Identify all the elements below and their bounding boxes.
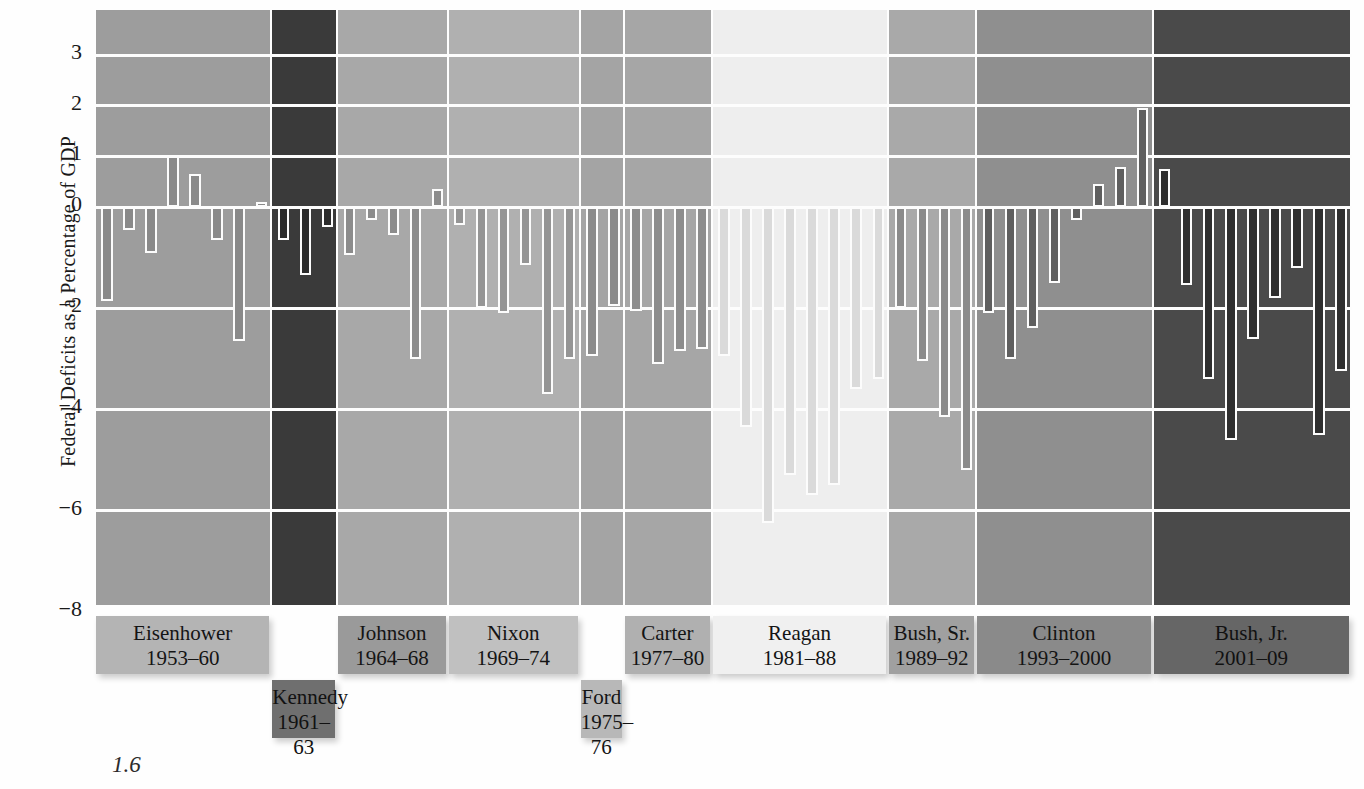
plate-years: 1989–92 — [889, 646, 974, 671]
bar-1972 — [520, 207, 531, 265]
bar-1989 — [895, 207, 906, 308]
plate-name: Nixon — [449, 621, 578, 646]
bar-2004 — [1225, 207, 1236, 440]
plate-years: 1953–60 — [96, 646, 269, 671]
bar-1956 — [167, 156, 178, 207]
bar-1957 — [189, 174, 200, 207]
bar-1991 — [939, 207, 950, 417]
bar-1987 — [850, 207, 861, 389]
bar-1960 — [256, 202, 267, 207]
gridline-2 — [96, 104, 1352, 107]
plate-name: Clinton — [977, 621, 1150, 646]
bar-1958 — [211, 207, 222, 240]
bar-1969 — [454, 207, 465, 225]
bar-1959 — [233, 207, 244, 341]
figure-caption: 1.6 — [112, 752, 141, 778]
bar-1976 — [608, 207, 619, 306]
plate-reagan: Reagan1981–88 — [713, 616, 886, 674]
bar-2003 — [1203, 207, 1214, 379]
bar-1988 — [873, 207, 884, 379]
bar-1979 — [674, 207, 685, 351]
bar-1982 — [740, 207, 751, 427]
bar-1953 — [101, 207, 112, 301]
bar-2009 — [1335, 207, 1346, 371]
plate-bush-sr: Bush, Sr.1989–92 — [889, 616, 974, 674]
bar-1967 — [410, 207, 421, 359]
bar-2002 — [1181, 207, 1192, 285]
bar-1998 — [1093, 184, 1104, 207]
bar-1990 — [917, 207, 928, 361]
plate-carter: Carter1977–80 — [625, 616, 710, 674]
bar-1977 — [630, 207, 641, 311]
plate-years: 1981–88 — [713, 646, 886, 671]
president-label-plates: Eisenhower1953–60Kennedy1961–63Johnson19… — [0, 0, 1364, 789]
bar-2008 — [1313, 207, 1324, 435]
bar-2001 — [1159, 169, 1170, 207]
plate-years: 1964–68 — [338, 646, 445, 671]
bar-1966 — [388, 207, 399, 235]
bar-1985 — [806, 207, 817, 495]
bar-2007 — [1291, 207, 1302, 268]
bar-1971 — [498, 207, 509, 313]
bar-1996 — [1049, 207, 1060, 283]
bar-1983 — [762, 207, 773, 523]
plate-years: 1969–74 — [449, 646, 578, 671]
bar-1962 — [300, 207, 311, 275]
bar-2005 — [1247, 207, 1258, 339]
bar-1995 — [1027, 207, 1038, 328]
bar-1999 — [1115, 167, 1126, 207]
plate-clinton: Clinton1993–2000 — [977, 616, 1150, 674]
plate-name: Reagan — [713, 621, 886, 646]
plate-years: 1961–63 — [272, 710, 335, 760]
bar-1992 — [961, 207, 972, 470]
plate-years: 1977–80 — [625, 646, 710, 671]
bar-1984 — [784, 207, 795, 475]
bar-2006 — [1269, 207, 1280, 298]
plate-name: Bush, Sr. — [889, 621, 974, 646]
bar-1955 — [145, 207, 156, 253]
bar-1968 — [432, 189, 443, 207]
plate-years: 1975–76 — [581, 710, 622, 760]
bar-1970 — [476, 207, 487, 308]
plate-bush-jr: Bush, Jr.2001–09 — [1154, 616, 1349, 674]
bar-1978 — [652, 207, 663, 364]
plate-kennedy: Kennedy1961–63 — [272, 680, 335, 738]
bar-1964 — [344, 207, 355, 255]
bar-1975 — [586, 207, 597, 356]
plate-years: 1993–2000 — [977, 646, 1150, 671]
plate-name: Kennedy — [272, 685, 335, 710]
gridline-1 — [96, 155, 1352, 158]
plate-name: Ford — [581, 685, 622, 710]
plate-eisenhower: Eisenhower1953–60 — [96, 616, 269, 674]
bar-1994 — [1005, 207, 1016, 359]
plate-name: Carter — [625, 621, 710, 646]
plate-nixon: Nixon1969–74 — [449, 616, 578, 674]
bar-1997 — [1071, 207, 1082, 220]
bar-1981 — [718, 207, 729, 356]
plate-johnson: Johnson1964–68 — [338, 616, 445, 674]
bar-1973 — [542, 207, 553, 394]
plate-years: 2001–09 — [1154, 646, 1349, 671]
plate-name: Bush, Jr. — [1154, 621, 1349, 646]
bar-1986 — [828, 207, 839, 485]
bar-1961 — [278, 207, 289, 240]
plate-name: Eisenhower — [96, 621, 269, 646]
bar-1974 — [564, 207, 575, 359]
gridline--4 — [96, 408, 1352, 411]
bar-1963 — [322, 207, 333, 227]
bar-1954 — [123, 207, 134, 230]
gridline--6 — [96, 509, 1352, 512]
bar-1993 — [983, 207, 994, 313]
gridline-3 — [96, 54, 1352, 57]
bar-2000 — [1137, 108, 1148, 207]
plate-name: Johnson — [338, 621, 445, 646]
bar-1965 — [366, 207, 377, 220]
bar-1980 — [696, 207, 707, 349]
plate-ford: Ford1975–76 — [581, 680, 622, 738]
